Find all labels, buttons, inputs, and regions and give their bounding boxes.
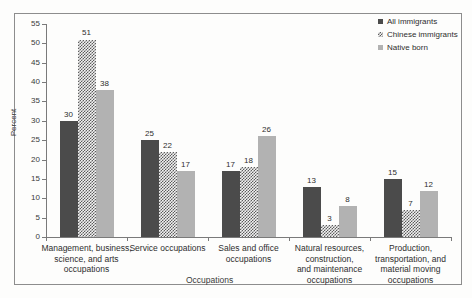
bar — [240, 167, 258, 237]
y-tick-label: 10 — [14, 194, 40, 202]
bar — [339, 206, 357, 237]
y-tick-label: 30 — [14, 117, 40, 125]
y-tick-mark — [42, 160, 47, 161]
legend-swatch-chinese-immigrants — [378, 32, 383, 37]
legend-label: Native born — [387, 43, 428, 52]
bar — [78, 40, 96, 238]
category-label-line: material moving — [363, 264, 458, 275]
y-tick-label: 55 — [14, 20, 40, 28]
bar-value-label: 13 — [297, 176, 327, 185]
chart-figure: Percent 5550454035302520151050 Occupatio… — [0, 0, 472, 298]
y-tick-label: 15 — [14, 175, 40, 183]
category-label: Production,transportation, andmaterial m… — [363, 243, 458, 285]
y-tick-label-holder: 15 — [8, 175, 40, 183]
bar — [321, 225, 339, 237]
bar-value-label: 26 — [252, 125, 282, 134]
y-tick-label: 20 — [14, 156, 40, 164]
x-tick-mark — [127, 237, 128, 241]
bar — [258, 136, 276, 237]
x-axis-line — [46, 237, 451, 238]
y-tick-label: 40 — [14, 78, 40, 86]
category-label-line: transportation, and — [363, 254, 458, 265]
y-tick-label-holder: 50 — [8, 39, 40, 47]
bar — [96, 90, 114, 237]
bar-value-label: 25 — [135, 129, 165, 138]
y-tick-mark — [42, 121, 47, 122]
legend-swatch-native-born — [378, 45, 383, 50]
y-axis-line — [46, 24, 47, 237]
y-tick-label-holder: 20 — [8, 156, 40, 164]
y-tick-label-holder: 55 — [8, 20, 40, 28]
chart-legend: All immigrantsChinese immigrantsNative b… — [378, 15, 464, 54]
y-tick-label: 50 — [14, 39, 40, 47]
x-tick-mark — [451, 237, 452, 241]
y-tick-label: 35 — [14, 97, 40, 105]
y-tick-label-holder: 40 — [8, 78, 40, 86]
x-tick-mark — [370, 237, 371, 241]
y-tick-label-holder: 10 — [8, 194, 40, 202]
bar — [303, 187, 321, 237]
y-tick-mark — [42, 82, 47, 83]
bar — [384, 179, 402, 237]
x-tick-mark — [289, 237, 290, 241]
legend-swatch-all-immigrants — [378, 19, 383, 24]
y-tick-label-holder: 35 — [8, 97, 40, 105]
y-tick-label-holder: 25 — [8, 136, 40, 144]
y-tick-mark — [42, 43, 47, 44]
y-tick-label-holder: 45 — [8, 59, 40, 67]
plot-area: Percent 5550454035302520151050 Occupatio… — [0, 0, 472, 298]
y-tick-label: 25 — [14, 136, 40, 144]
y-tick-mark — [42, 101, 47, 102]
category-label-line: occupations — [39, 264, 134, 275]
y-tick-mark — [42, 24, 47, 25]
bar — [402, 210, 420, 237]
legend-item: Native born — [378, 41, 464, 54]
bar-value-label: 15 — [378, 168, 408, 177]
y-tick-mark — [42, 140, 47, 141]
bar — [141, 140, 159, 237]
y-tick-mark — [42, 198, 47, 199]
legend-label: Chinese immigrants — [387, 30, 458, 39]
y-tick-label-holder: 0 — [8, 233, 40, 241]
y-tick-label-holder: 30 — [8, 117, 40, 125]
bar-value-label: 8 — [333, 195, 363, 204]
y-tick-mark — [42, 179, 47, 180]
y-tick-label-holder: 5 — [8, 214, 40, 222]
x-tick-mark — [208, 237, 209, 241]
bar-value-label: 38 — [90, 79, 120, 88]
bar — [177, 171, 195, 237]
legend-item: Chinese immigrants — [378, 28, 464, 41]
y-tick-label: 0 — [14, 233, 40, 241]
bar-value-label: 17 — [171, 160, 201, 169]
bar — [420, 191, 438, 237]
bar — [60, 121, 78, 237]
y-tick-label: 5 — [14, 214, 40, 222]
y-tick-label: 45 — [14, 59, 40, 67]
category-label-line: Production, — [363, 243, 458, 254]
category-label-line: science, and arts — [39, 254, 134, 265]
legend-label: All immigrants — [387, 17, 437, 26]
y-tick-mark — [42, 63, 47, 64]
x-tick-mark — [46, 237, 47, 241]
bar-value-label: 12 — [414, 180, 444, 189]
bar — [222, 171, 240, 237]
legend-item: All immigrants — [378, 15, 464, 28]
y-tick-mark — [42, 218, 47, 219]
x-axis-title: Occupations — [186, 275, 233, 285]
bar-value-label: 51 — [72, 28, 102, 37]
category-label-line: occupations — [363, 275, 458, 286]
bar-value-label: 22 — [153, 141, 183, 150]
